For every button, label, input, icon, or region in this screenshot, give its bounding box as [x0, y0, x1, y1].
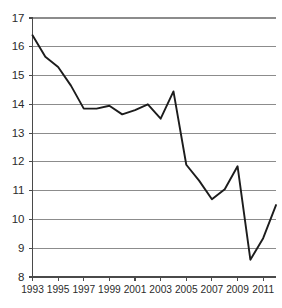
- x-tick-label: 2009: [226, 284, 249, 295]
- y-tick-label: 13: [12, 127, 25, 139]
- axes: [33, 17, 277, 277]
- x-tick-label: 1995: [47, 284, 70, 295]
- x-tick-label: 1999: [98, 284, 121, 295]
- data-series: [33, 35, 277, 259]
- x-tick-label: 2011: [252, 284, 274, 295]
- x-tick-label: 2001: [124, 284, 147, 295]
- y-tick-label: 14: [12, 98, 25, 110]
- gridlines: [29, 18, 277, 277]
- y-axis-labels: 171615141312111098: [12, 12, 25, 283]
- y-tick-label: 9: [18, 242, 24, 254]
- x-tick-label: 2007: [201, 284, 224, 295]
- y-tick-label: 12: [12, 155, 25, 167]
- y-tick-label: 16: [12, 40, 25, 52]
- line-chart: 171615141312111098 199319951997199920012…: [0, 0, 282, 308]
- y-tick-label: 15: [12, 69, 25, 81]
- y-tick-label: 10: [12, 213, 25, 225]
- y-tick-label: 11: [13, 184, 25, 196]
- x-axis-labels: 1993199519971999200120032005200720092011: [21, 284, 274, 295]
- y-tick-label: 17: [12, 12, 25, 24]
- x-tick-label: 2003: [149, 284, 172, 295]
- y-tick-label: 8: [18, 271, 24, 283]
- chart-canvas: 171615141312111098 199319951997199920012…: [0, 0, 282, 308]
- x-tick-label: 1993: [21, 284, 44, 295]
- x-tick-label: 1997: [72, 284, 95, 295]
- x-tick-label: 2005: [175, 284, 198, 295]
- data-line-1: [33, 35, 277, 259]
